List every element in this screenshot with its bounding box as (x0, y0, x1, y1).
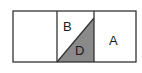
label-d: D (75, 43, 84, 58)
diagram: B D A (0, 0, 142, 73)
label-a: A (109, 33, 118, 48)
label-b: B (63, 19, 72, 34)
